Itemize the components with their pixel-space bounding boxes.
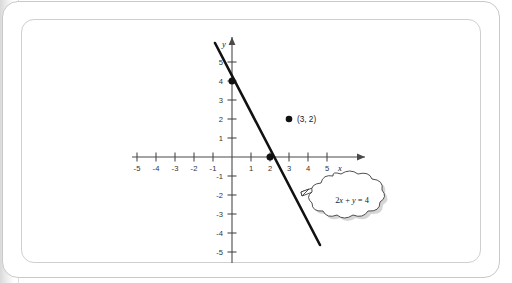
equation-text: 2x + y = 4 xyxy=(335,196,369,205)
x-tick-label: 4 xyxy=(306,164,310,173)
x-tick-label: 5 xyxy=(325,164,329,173)
eq-equals: = xyxy=(356,196,365,205)
equation-line xyxy=(215,43,320,245)
y-tick-label: -2 xyxy=(216,191,223,200)
y-tick-label: -5 xyxy=(216,248,223,257)
equation-callout-bubble: 2x + y = 4 xyxy=(309,171,388,221)
y-axis-label: y xyxy=(221,39,226,49)
y-tick-label: 4 xyxy=(219,77,223,86)
y-tick-label: 1 xyxy=(219,134,223,143)
y-tick-label: 3 xyxy=(219,96,223,105)
y-intercept-point xyxy=(229,78,236,85)
plotted-point-label: (3, 2) xyxy=(297,115,316,124)
y-tick-label: -3 xyxy=(216,210,223,219)
x-tick-label: -5 xyxy=(134,164,141,173)
x-tick-label: -4 xyxy=(153,164,160,173)
x-axis-label: x xyxy=(337,163,342,173)
x-tick-label: -2 xyxy=(191,164,198,173)
plotted-point-3-2 xyxy=(286,116,293,123)
x-tick-label: 2 xyxy=(268,164,272,173)
y-tick-label: -1 xyxy=(216,172,223,181)
eq-plus: + xyxy=(343,196,352,205)
x-tick-labels: -5 -4 -3 -2 -1 1 2 3 4 5 xyxy=(134,164,330,173)
x-axis xyxy=(132,154,365,161)
x-tick-label: -3 xyxy=(172,164,179,173)
x-tick-label: 3 xyxy=(287,164,291,173)
x-tick-label: 1 xyxy=(249,164,253,173)
x-intercept-point xyxy=(267,154,274,161)
graph-figure: -5 -4 -3 -2 -1 1 2 3 4 5 5 4 3 2 1 -1 -2… xyxy=(21,19,481,263)
y-tick-label: 2 xyxy=(219,115,223,124)
y-tick-label: -4 xyxy=(216,229,223,238)
